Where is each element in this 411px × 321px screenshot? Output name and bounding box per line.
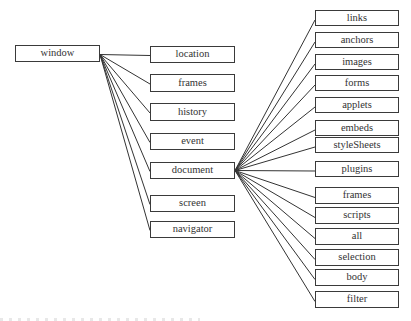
node-label: frames <box>343 190 372 201</box>
node-label: frames <box>178 78 207 89</box>
node-label: anchors <box>341 35 374 46</box>
node-label: images <box>342 57 372 68</box>
node-all: all <box>315 228 399 245</box>
node-label: history <box>178 107 207 118</box>
connector-line <box>235 20 315 171</box>
node-embeds: embeds <box>315 120 399 136</box>
connector-line <box>235 171 315 239</box>
node-label: filter <box>347 294 367 305</box>
node-applets: applets <box>315 97 399 113</box>
node-document-frames: frames <box>315 187 399 204</box>
node-label: selection <box>338 252 375 263</box>
connector-line <box>235 42 315 171</box>
connector-line <box>100 55 150 114</box>
node-event: event <box>150 133 235 150</box>
node-filter: filter <box>315 291 399 308</box>
node-selection: selection <box>315 249 399 266</box>
object-model-diagram: window location frames history event doc… <box>0 0 411 321</box>
connector-line <box>235 171 315 280</box>
node-window: window <box>15 45 100 62</box>
connector-line <box>100 55 150 56</box>
node-label: body <box>347 272 368 283</box>
connector-line <box>235 171 315 172</box>
connector-line <box>235 171 315 218</box>
node-scripts: scripts <box>315 207 399 224</box>
node-label: document <box>172 165 213 176</box>
node-screen: screen <box>150 195 235 212</box>
node-links: links <box>315 10 399 26</box>
node-label: links <box>347 13 367 24</box>
connector-line <box>235 64 315 171</box>
node-label: applets <box>342 100 372 111</box>
node-label: plugins <box>342 164 373 175</box>
node-document: document <box>150 162 235 179</box>
node-label: styleSheets <box>333 140 380 151</box>
node-forms: forms <box>315 75 399 91</box>
connector-line <box>100 55 150 172</box>
node-body: body <box>315 269 399 286</box>
node-images: images <box>315 54 399 70</box>
node-label: forms <box>345 78 370 89</box>
node-stylesheets: styleSheets <box>315 137 399 153</box>
node-label: screen <box>179 198 206 209</box>
node-label: all <box>352 231 363 242</box>
node-label: scripts <box>343 210 370 221</box>
connector-line <box>235 85 315 171</box>
node-label: event <box>181 136 204 147</box>
node-label: location <box>176 49 210 60</box>
connector-line <box>100 55 150 231</box>
node-frames: frames <box>150 74 235 92</box>
node-plugins: plugins <box>315 161 399 177</box>
node-anchors: anchors <box>315 32 399 48</box>
node-label: window <box>41 48 75 59</box>
node-location: location <box>150 46 235 63</box>
node-navigator: navigator <box>150 221 235 238</box>
node-history: history <box>150 103 235 121</box>
node-label: embeds <box>341 123 373 134</box>
connector-line <box>235 171 315 302</box>
node-label: navigator <box>173 224 213 235</box>
